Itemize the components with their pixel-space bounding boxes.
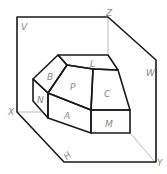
axis-label-x: X: [7, 107, 15, 117]
face-label-l: L: [90, 59, 95, 69]
axis-label-y: Y: [157, 158, 164, 168]
axis-label-z: Z: [105, 8, 113, 18]
planes-outline: [17, 17, 156, 162]
face-c: [91, 69, 130, 110]
face-label-b: B: [47, 72, 53, 82]
y-axis-line: [130, 133, 155, 162]
face-label-p: P: [70, 82, 76, 92]
plane-label-w: W: [146, 68, 156, 78]
face-label-n: N: [37, 95, 44, 105]
face-label-c: C: [104, 89, 111, 99]
plane-label-h: H: [61, 150, 73, 162]
face-label-a: A: [63, 111, 70, 121]
plane-label-v: V: [21, 22, 28, 32]
solid-object: [33, 55, 130, 133]
face-label-m: M: [105, 119, 113, 129]
projection-diagram: V W H Z X Y B P L N C A M: [0, 0, 167, 174]
